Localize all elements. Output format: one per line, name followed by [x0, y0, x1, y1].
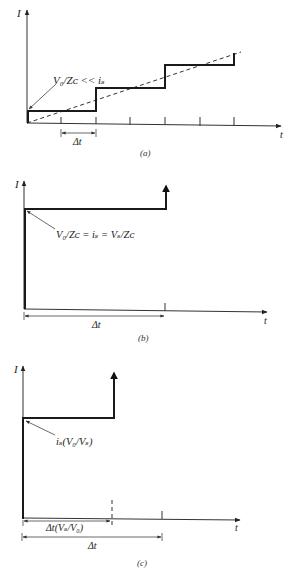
panel-caption: (b) — [138, 333, 149, 343]
staircase-current — [28, 53, 234, 123]
annotation-arrow — [26, 421, 55, 435]
annotation-text: V₀/Zᴄ << iₛ — [53, 74, 105, 86]
figure-canvas: V₀/Zᴄ << iₛ I t Δt (a) V₀/Zᴄ = iₛ = Vₛ/Z… — [0, 0, 291, 570]
x-axis-label: t — [264, 315, 267, 326]
y-axis-label: I — [16, 7, 22, 19]
x-axis-label: t — [280, 129, 283, 140]
panel-c: iₛ(V₀/Vₛ) I t Δt(Vₛ/V₀) Δt (c) — [13, 363, 240, 568]
x-axis — [27, 123, 281, 126]
x-axis — [23, 518, 240, 520]
short-interval-label: Δt(Vₛ/V₀) — [45, 522, 84, 534]
current-trace — [23, 380, 114, 519]
y-axis-label: I — [14, 178, 20, 190]
annotation-arrow — [27, 211, 55, 229]
interval-label: Δt — [91, 319, 101, 330]
panel-caption: (a) — [140, 148, 151, 158]
annotation-arrow — [29, 84, 56, 109]
y-axis-label: I — [13, 363, 19, 375]
annotation-text: V₀/Zᴄ = iₛ = Vₛ/Zᴄ — [56, 229, 134, 240]
annotation-text: iₛ(V₀/Vₛ) — [56, 436, 93, 448]
panel-caption: (c) — [137, 558, 147, 568]
interval-label: Δt — [72, 136, 82, 147]
x-axis-label: t — [235, 522, 238, 533]
x-axis — [24, 309, 267, 312]
current-trace — [25, 192, 166, 309]
interval-label: Δt — [87, 540, 97, 551]
panel-b: V₀/Zᴄ = iₛ = Vₛ/Zᴄ I t Δt (b) — [14, 178, 267, 343]
panel-a: V₀/Zᴄ << iₛ I t Δt (a) — [16, 7, 283, 158]
